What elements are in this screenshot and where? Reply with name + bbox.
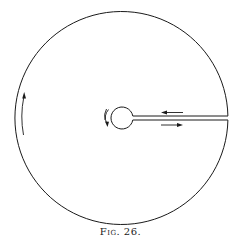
- figure-caption: Fig. 26.: [0, 226, 241, 237]
- figure-diagram: [0, 0, 241, 246]
- channel-lower-arrow-icon: [161, 123, 183, 127]
- channel-upper-arrow-icon: [161, 111, 183, 115]
- inner-circle-arrow-icon: [105, 109, 109, 127]
- outer-circle: [15, 12, 228, 225]
- outer-rim-arrow-icon: [22, 92, 26, 135]
- inner-circle: [111, 107, 133, 129]
